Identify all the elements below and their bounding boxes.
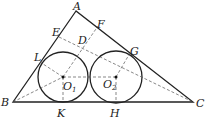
label-f: F [96, 18, 105, 31]
center-o1-dot [62, 76, 65, 79]
segment-o1-l [40, 62, 63, 77]
label-k: K [56, 107, 66, 120]
label-c: C [196, 97, 205, 110]
label-g: G [130, 45, 139, 58]
label-l: L [33, 51, 41, 64]
label-e: E [51, 26, 60, 39]
geometry-diagram: A B C D E F G H K L O1 O2 [0, 0, 205, 123]
label-o2: O2 [103, 78, 117, 92]
center-o2-dot [115, 76, 118, 79]
label-d: D [77, 34, 87, 47]
label-h: H [109, 107, 120, 120]
label-o1: O1 [63, 80, 77, 94]
label-b: B [0, 96, 9, 109]
segment-o2-g [116, 53, 130, 77]
label-a: A [72, 0, 81, 13]
